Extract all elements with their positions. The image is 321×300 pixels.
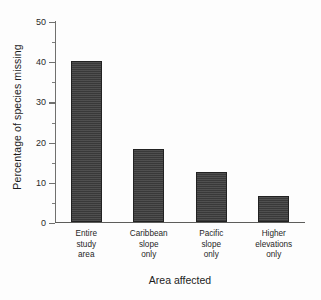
y-tick-label: 50 xyxy=(36,17,46,27)
y-minor-tick-mark xyxy=(52,82,56,83)
y-tick-mark xyxy=(49,143,55,144)
y-tick-label: 0 xyxy=(41,218,46,228)
x-tick-label: Higher elevations only xyxy=(255,229,292,261)
y-tick-label: 40 xyxy=(36,57,46,67)
bar xyxy=(196,172,227,222)
y-minor-tick-mark xyxy=(52,42,56,43)
x-tick-label: Entire study area xyxy=(76,229,97,261)
x-tick-label: Pacific slope only xyxy=(199,229,223,261)
y-minor-tick-mark xyxy=(52,203,56,204)
y-axis-spine xyxy=(55,21,56,223)
y-minor-tick-mark xyxy=(52,163,56,164)
y-tick-mark xyxy=(49,22,55,23)
y-tick-label: 10 xyxy=(36,178,46,188)
y-tick-mark xyxy=(49,183,55,184)
y-minor-tick-mark xyxy=(52,123,56,124)
bar xyxy=(133,149,164,222)
plot-area: 01020304050 Entire study areaCaribbean s… xyxy=(55,21,305,223)
bar-chart-figure: Percentage of species missing 0102030405… xyxy=(0,0,321,300)
y-tick-mark xyxy=(49,62,55,63)
bar xyxy=(258,196,289,222)
x-tick-label: Caribbean slope only xyxy=(130,229,168,261)
y-tick-label: 20 xyxy=(36,138,46,148)
y-tick-mark xyxy=(49,223,55,224)
y-axis-title: Percentage of species missing xyxy=(11,17,23,217)
y-tick-mark xyxy=(49,102,55,103)
y-tick-label: 30 xyxy=(36,97,46,107)
bar xyxy=(71,61,102,223)
x-axis-title: Area affected xyxy=(55,274,305,286)
